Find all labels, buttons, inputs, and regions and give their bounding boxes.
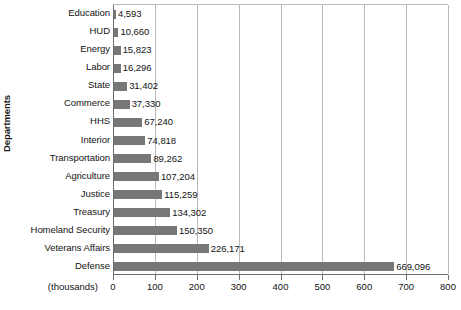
x-tick bbox=[406, 275, 407, 280]
category-label: Labor bbox=[0, 62, 110, 72]
x-axis-units-label: (thousands) bbox=[48, 281, 98, 292]
bar-value-label: 15,823 bbox=[123, 45, 152, 55]
category-label-column: EducationHUDEnergyLaborStateCommerceHHSI… bbox=[0, 0, 110, 275]
x-tick bbox=[364, 275, 365, 280]
category-label: Interior bbox=[0, 135, 110, 145]
bar bbox=[114, 28, 118, 37]
category-label: Treasury bbox=[0, 207, 110, 217]
bar bbox=[114, 82, 127, 91]
bar-value-label: 134,302 bbox=[172, 208, 206, 218]
bar-value-label: 89,262 bbox=[153, 154, 182, 164]
bar bbox=[114, 100, 130, 109]
x-tick bbox=[281, 275, 282, 280]
bar bbox=[114, 10, 116, 19]
bar bbox=[114, 208, 170, 217]
bar-value-label: 4,593 bbox=[118, 9, 142, 19]
bar bbox=[114, 262, 394, 271]
bar-value-label: 74,818 bbox=[147, 136, 176, 146]
bar-value-label: 669,096 bbox=[396, 262, 430, 272]
gridline-800 bbox=[448, 5, 449, 274]
category-label: Transportation bbox=[0, 153, 110, 163]
x-tick-label: 400 bbox=[261, 281, 301, 292]
x-tick-label: 500 bbox=[302, 281, 342, 292]
category-label: State bbox=[0, 80, 110, 90]
bar bbox=[114, 226, 177, 235]
category-label: Energy bbox=[0, 44, 110, 54]
x-tick-label: 100 bbox=[135, 281, 175, 292]
gridline-700 bbox=[406, 5, 407, 274]
category-label: Homeland Security bbox=[0, 225, 110, 235]
x-tick bbox=[113, 275, 114, 280]
x-tick-label: 700 bbox=[386, 281, 426, 292]
category-label: Defense bbox=[0, 261, 110, 271]
category-label: Education bbox=[0, 8, 110, 18]
bar-value-label: 31,402 bbox=[129, 81, 158, 91]
bar bbox=[114, 244, 209, 253]
bar bbox=[114, 118, 142, 127]
category-label: HHS bbox=[0, 116, 110, 126]
bar bbox=[114, 46, 121, 55]
bar bbox=[114, 64, 121, 73]
gridline-500 bbox=[322, 5, 323, 274]
bar-value-label: 37,330 bbox=[132, 99, 161, 109]
x-tick bbox=[322, 275, 323, 280]
x-tick-label: 0 bbox=[93, 281, 133, 292]
x-tick-label: 800 bbox=[428, 281, 461, 292]
bar-value-label: 150,350 bbox=[179, 226, 213, 236]
bar bbox=[114, 136, 145, 145]
plot-area: 4,59310,66015,82316,29631,40237,33067,24… bbox=[113, 4, 448, 275]
x-tick bbox=[239, 275, 240, 280]
gridline-300 bbox=[239, 5, 240, 274]
gridline-400 bbox=[281, 5, 282, 274]
category-label: HUD bbox=[0, 26, 110, 36]
bar-value-label: 226,171 bbox=[211, 244, 245, 254]
x-tick-label: 200 bbox=[177, 281, 217, 292]
x-tick bbox=[448, 275, 449, 280]
bar bbox=[114, 172, 159, 181]
bar-value-label: 107,204 bbox=[161, 172, 195, 182]
gridline-600 bbox=[364, 5, 365, 274]
category-label: Agriculture bbox=[0, 171, 110, 181]
bar-value-label: 115,259 bbox=[164, 190, 197, 200]
bar bbox=[114, 190, 162, 199]
x-tick bbox=[155, 275, 156, 280]
category-label: Justice bbox=[0, 189, 110, 199]
bar-value-label: 10,660 bbox=[120, 27, 149, 37]
bar-value-label: 67,240 bbox=[144, 117, 173, 127]
x-tick bbox=[197, 275, 198, 280]
category-label: Commerce bbox=[0, 98, 110, 108]
x-tick-label: 600 bbox=[344, 281, 384, 292]
bar-value-label: 16,296 bbox=[123, 63, 152, 73]
category-label: Veterans Affairs bbox=[0, 243, 110, 253]
bar bbox=[114, 154, 151, 163]
x-tick-label: 300 bbox=[219, 281, 259, 292]
